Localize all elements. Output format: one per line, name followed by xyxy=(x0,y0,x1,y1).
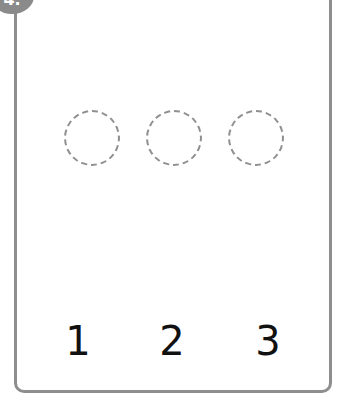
number-label-1: 1 xyxy=(48,318,108,364)
number-label-2: 2 xyxy=(142,318,202,364)
blank-circle-2[interactable] xyxy=(146,110,202,166)
blank-circle-1[interactable] xyxy=(64,110,120,166)
blank-circle-3[interactable] xyxy=(228,110,284,166)
number-label-3: 3 xyxy=(238,318,298,364)
